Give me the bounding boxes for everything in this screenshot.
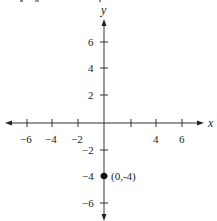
data-point bbox=[101, 173, 107, 179]
x-axis-right-arrow-icon bbox=[197, 121, 204, 126]
y-axis-top-arrow-icon bbox=[102, 19, 107, 26]
x-axis-label: x bbox=[207, 116, 214, 130]
x-axis-left-arrow-icon bbox=[5, 121, 12, 126]
y-tick-label: 4 bbox=[88, 62, 94, 74]
y-tick-label: 2 bbox=[88, 89, 94, 101]
cropped-text-fragment bbox=[20, 0, 101, 2]
data-point-label: (0,-4) bbox=[111, 170, 136, 183]
y-axis-bottom-arrow-icon bbox=[102, 214, 107, 221]
x-tick-label: 6 bbox=[179, 133, 185, 145]
x-tick-label: 4 bbox=[153, 133, 159, 145]
y-tick-label: −2 bbox=[82, 144, 94, 156]
coordinate-plane: x y −6 −4 −2 4 6 6 4 2 −2 −4 −6 (0,-4) bbox=[0, 0, 217, 221]
x-tick-label: −4 bbox=[45, 133, 57, 145]
y-tick-label: −6 bbox=[82, 197, 94, 209]
x-tick-label: −2 bbox=[71, 133, 83, 145]
x-tick-labels: −6 −4 −2 4 6 bbox=[20, 133, 185, 145]
y-tick-label: 6 bbox=[88, 36, 94, 48]
x-tick-label: −6 bbox=[20, 133, 32, 145]
y-axis-label: y bbox=[100, 3, 107, 17]
y-tick-label: −4 bbox=[82, 170, 94, 182]
